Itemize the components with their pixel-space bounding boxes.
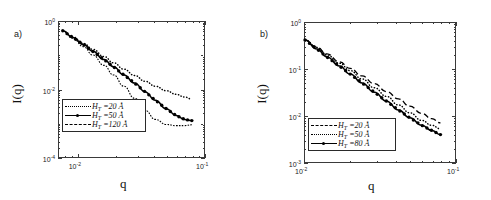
y-tick-right <box>452 163 456 164</box>
series-2-marker <box>169 110 172 113</box>
panel-a-legend: HT =20 ÅHT =50 ÅHT =120 Å <box>62 99 146 132</box>
y-tick-minor-right <box>454 74 456 75</box>
x-tick-minor-top <box>449 22 450 24</box>
y-tick-label: 10-1 <box>276 65 301 74</box>
panel-b: b) I(q) q 10010-110-210-3 10-210-1 HT =2… <box>246 0 491 200</box>
x-tick-minor <box>441 161 442 163</box>
y-tick-minor <box>58 63 60 64</box>
y-tick-minor-right <box>203 93 205 94</box>
y-tick-label: 10-4 <box>30 154 55 163</box>
x-tick-minor-top <box>396 22 397 24</box>
series-3-marker <box>344 69 347 72</box>
x-tick-minor-top <box>433 22 434 24</box>
x-tick-minor <box>422 161 423 163</box>
x-tick-major <box>304 159 305 163</box>
y-tick-minor-right <box>454 71 456 72</box>
panel-a-x-axis-title: q <box>120 176 127 192</box>
legend-marker <box>76 114 79 117</box>
x-tick-minor-top <box>441 22 442 24</box>
x-tick-minor-top <box>154 21 155 23</box>
y-tick-minor-right <box>203 61 205 62</box>
y-tick-minor <box>304 55 306 56</box>
legend-key-dotted <box>65 102 91 111</box>
series-3-marker <box>308 42 311 45</box>
y-tick-minor-right <box>203 63 205 64</box>
y-tick-minor <box>58 69 60 70</box>
x-tick-top <box>304 22 305 26</box>
y-tick-minor-right <box>203 103 205 104</box>
y-tick-minor <box>58 142 60 143</box>
y-tick-minor-right <box>203 45 205 46</box>
y-tick-minor <box>304 118 306 119</box>
y-tick-major <box>58 124 60 125</box>
x-tick-minor-top <box>422 22 423 24</box>
series-3-marker <box>357 79 360 82</box>
x-tick-label: 10-2 <box>295 166 307 175</box>
y-tick-minor-right <box>203 107 205 108</box>
series-3-marker <box>326 56 329 59</box>
x-tick-major <box>78 154 79 158</box>
series-2-marker <box>95 53 98 56</box>
y-tick-major <box>58 90 62 91</box>
y-tick-minor <box>304 71 306 72</box>
y-tick-minor-right <box>454 130 456 131</box>
y-tick-label: 100 <box>30 17 55 26</box>
x-tick-major <box>456 159 457 163</box>
y-tick-minor <box>304 29 306 30</box>
series-3-marker <box>407 115 410 118</box>
y-tick-minor <box>304 102 306 103</box>
legend-key-solid-markers <box>65 111 91 120</box>
legend-line <box>65 106 91 107</box>
x-tick-minor <box>193 156 194 158</box>
y-tick-minor <box>304 83 306 84</box>
x-tick-minor-top <box>193 21 194 23</box>
y-tick-minor-right <box>203 31 205 32</box>
series-2-marker <box>134 82 137 85</box>
series-2-marker <box>117 69 120 72</box>
y-tick-minor <box>58 26 60 27</box>
x-tick-minor <box>433 161 434 163</box>
legend-item: HT =80 Å <box>311 139 392 148</box>
x-tick-minor <box>154 156 155 158</box>
panel-b-tag: b) <box>260 29 268 39</box>
y-tick-minor-right <box>203 66 205 67</box>
y-tick-minor-right <box>454 94 456 95</box>
series-3-marker <box>389 103 392 106</box>
y-tick-minor-right <box>203 57 205 58</box>
y-tick-minor <box>304 76 306 77</box>
y-tick-minor <box>304 130 306 131</box>
y-tick-minor-right <box>454 47 456 48</box>
x-tick-minor-top <box>167 21 168 23</box>
series-2-marker <box>108 63 111 66</box>
y-tick-minor <box>58 35 60 36</box>
y-tick-minor <box>58 59 60 60</box>
series-2-line <box>305 40 440 129</box>
series-3-marker <box>398 109 401 112</box>
x-tick-label: 10-1 <box>196 161 208 170</box>
y-tick-minor-right <box>454 76 456 77</box>
y-tick-minor-right <box>454 149 456 150</box>
y-tick-minor-right <box>454 83 456 84</box>
series-2-marker <box>121 73 124 76</box>
series-2-marker <box>126 76 129 79</box>
panel-b-legend: HT =20 ÅHT =50 ÅHT =80 Å <box>308 118 396 151</box>
series-2-marker <box>147 93 150 96</box>
legend-marker <box>322 142 325 145</box>
y-tick-minor <box>58 137 60 138</box>
y-tick-minor <box>58 91 60 92</box>
y-tick-minor <box>304 135 306 136</box>
series-3-marker <box>348 72 351 75</box>
x-tick-minor <box>377 161 378 163</box>
y-tick-minor-right <box>454 79 456 80</box>
y-tick-minor <box>304 141 306 142</box>
series-2-marker <box>130 79 133 82</box>
x-tick-minor <box>116 156 117 158</box>
y-tick-minor <box>304 123 306 124</box>
x-tick-minor-top <box>410 22 411 24</box>
y-tick-minor <box>58 127 60 128</box>
y-tick-minor-right <box>203 91 205 92</box>
x-tick-minor <box>410 161 411 163</box>
y-tick-minor <box>304 121 306 122</box>
legend-key-solid-markers <box>311 139 337 148</box>
x-tick-minor <box>396 161 397 163</box>
